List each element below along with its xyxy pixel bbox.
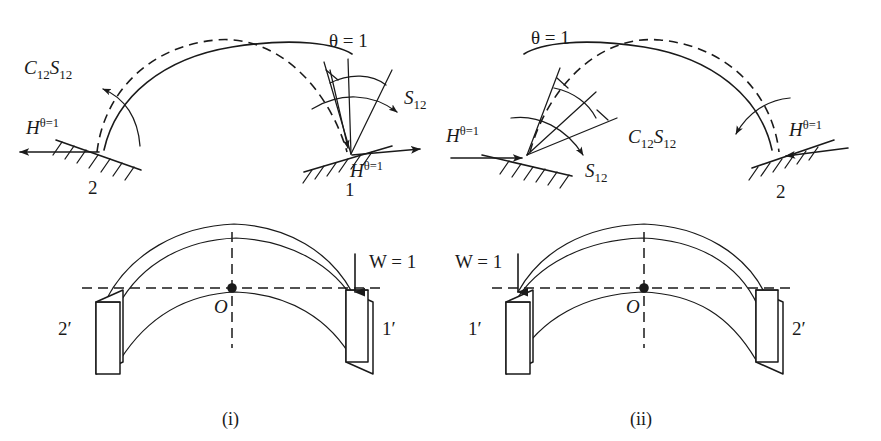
label-abutment-right-i: 1′ [382, 318, 396, 339]
label-rotation-ii: θ = 1 [531, 27, 570, 48]
label-carryover-moment-i: C12S12 [24, 57, 72, 82]
abutment-left-i [96, 290, 123, 374]
original-arch-curve-i [97, 40, 347, 152]
support-2-ii [749, 140, 834, 180]
caption-panel-ii: (ii) [630, 409, 652, 430]
panel-i-labels: C12S12 Hθ=1 2 θ = 1 S12 1 Hθ=1 [24, 30, 427, 200]
support-1-ii [482, 155, 572, 188]
label-node-2-ii: 2 [776, 181, 786, 202]
arch-view-i [82, 224, 385, 374]
label-unit-load-i: W = 1 [369, 251, 416, 272]
panel-ii-line-diagram [451, 40, 848, 188]
label-rotation-i: θ = 1 [329, 30, 368, 51]
label-node-1-i: 1 [345, 179, 355, 200]
label-abutment-left-i: 2′ [58, 318, 72, 339]
support-2-i [53, 140, 141, 180]
label-thrust-node-2-i: Hθ=1 [25, 116, 59, 138]
deflected-arch-curve-i [104, 42, 352, 150]
caption-panel-i: (i) [222, 409, 239, 430]
label-moment-node-1-i: S12 [404, 87, 427, 112]
panel-ii-labels: θ = 1 Hθ=1 S12 C12S12 Hθ=1 2 [445, 27, 822, 202]
figure-root: C12S12 Hθ=1 2 θ = 1 S12 1 Hθ=1 [0, 0, 881, 441]
label-abutment-left-ii: 1′ [468, 318, 482, 339]
carryover-moment-arc-i [103, 89, 140, 146]
label-thrust-node-1-ii: Hθ=1 [445, 124, 479, 146]
label-carryover-moment-ii: C12S12 [628, 126, 676, 151]
abutment-right-ii [756, 290, 783, 374]
carryover-moment-arc-ii [736, 98, 790, 134]
rotation-fan-i [312, 59, 397, 154]
label-abutment-right-ii: 2′ [792, 318, 806, 339]
abutment-left-ii [506, 290, 533, 374]
engineering-figure: C12S12 Hθ=1 2 θ = 1 S12 1 Hθ=1 [0, 0, 881, 441]
label-thrust-node-2-ii: Hθ=1 [788, 118, 822, 140]
label-centroid-ii: O [626, 296, 640, 317]
abutment-right-i [346, 290, 373, 374]
arch-view-ii [492, 224, 795, 374]
thrust-arrow-node-1-i [352, 149, 420, 155]
arch-intrados-i [120, 292, 354, 362]
label-unit-load-ii: W = 1 [455, 251, 502, 272]
centroid-marker-i [227, 283, 237, 293]
label-thrust-node-1-i: Hθ=1 [349, 159, 383, 181]
label-moment-node-1-ii: S12 [585, 160, 608, 185]
label-node-2-i: 2 [88, 177, 98, 198]
rotation-fan-ii [511, 68, 617, 155]
centroid-marker-ii [639, 283, 649, 293]
deflected-arch-curve-ii [524, 42, 772, 150]
label-centroid-i: O [214, 296, 228, 317]
